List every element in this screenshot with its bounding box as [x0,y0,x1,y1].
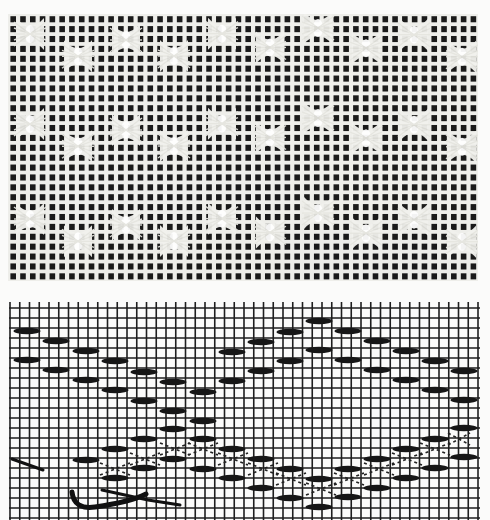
woven-fabric-photo [8,14,478,281]
thread-pattern-diagram [0,300,490,520]
grid-chart [0,300,490,520]
fabric-texture-image [8,14,478,281]
